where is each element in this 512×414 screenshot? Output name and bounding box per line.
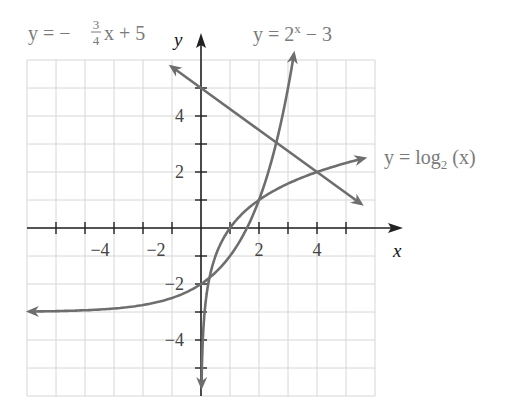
axes [27, 33, 403, 396]
y-tick-label: 4 [175, 106, 184, 126]
y-axis-label: y [172, 29, 183, 50]
exponential-equation-label: y = 2x − 3 [253, 21, 332, 46]
y-tick-label: −2 [165, 274, 184, 294]
x-tick-label: −4 [90, 240, 109, 260]
eq-text: x + 5 [104, 22, 145, 44]
eq-text: y = − [28, 22, 71, 45]
arrowhead-icon [169, 65, 183, 77]
exponential-curve [30, 55, 294, 312]
log-curve [202, 158, 364, 386]
x-axis-label: x [392, 240, 402, 261]
function-graph: y x −4 −2 2 4 4 2 −2 −4 y = − 3 4 x + 5 … [0, 0, 512, 414]
curves [26, 51, 367, 390]
x-tick-label: 2 [255, 240, 264, 260]
fraction-numerator: 3 [93, 17, 100, 32]
eq-text: y = log2 (x) [384, 146, 476, 172]
eq-text: y = 2x − 3 [253, 21, 332, 46]
y-tick-label: 2 [175, 162, 184, 182]
y-tick-label: −4 [165, 330, 184, 350]
fraction-denominator: 4 [93, 33, 100, 48]
linear-equation-label: y = − 3 4 x + 5 [28, 17, 145, 48]
x-tick-label: −2 [146, 240, 165, 260]
log-equation-label: y = log2 (x) [384, 146, 476, 172]
x-tick-label: 4 [313, 240, 322, 260]
